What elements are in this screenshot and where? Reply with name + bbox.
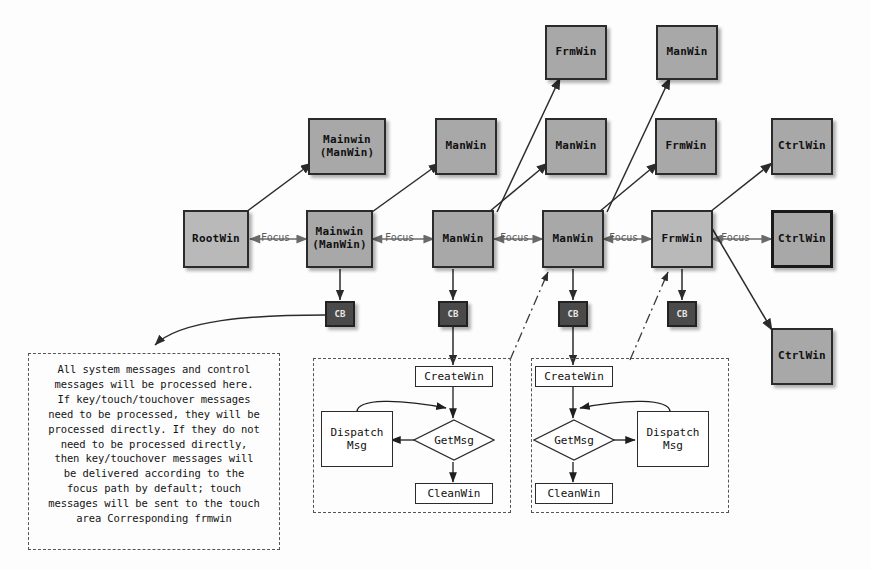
flow-left-createwin[interactable]: CreateWin [415, 366, 493, 387]
node-label: CtrlWin [778, 233, 826, 246]
node-label: ManWin [553, 233, 594, 246]
node-rootwin[interactable]: RootWin [183, 210, 249, 268]
proc-label: CleanWin [428, 487, 481, 500]
cb-box-4[interactable]: CB [667, 301, 697, 327]
proc-label: CleanWin [548, 487, 601, 500]
cb-box-3[interactable]: CB [558, 301, 588, 327]
node-child-mainwin-manwin[interactable]: Mainwin (ManWin) [308, 118, 386, 175]
proc-label: CreateWin [544, 370, 604, 383]
node-child-frmwin-top[interactable]: FrmWin [545, 25, 607, 80]
flow-right-createwin[interactable]: CreateWin [535, 366, 613, 387]
note-line-10: messages will be sent to the touch [35, 496, 273, 511]
note-line-5: processed directly. If they do not [35, 422, 273, 437]
cb-box-2[interactable]: CB [438, 301, 468, 327]
note-line-9: focus path by default; touch [35, 481, 273, 496]
node-manwin-1[interactable]: ManWin [432, 210, 494, 268]
flow-right-cleanwin[interactable]: CleanWin [535, 483, 613, 504]
cb-label: CB [568, 309, 579, 319]
node-label-line2: (ManWin) [320, 147, 375, 160]
node-child-ctrlwin-top[interactable]: CtrlWin [771, 118, 833, 175]
node-label: ManWin [556, 140, 597, 153]
node-child-manwin-a[interactable]: ManWin [435, 118, 497, 175]
node-mainwin-manwin[interactable]: Mainwin (ManWin) [306, 210, 373, 268]
node-child-manwin-b[interactable]: ManWin [545, 118, 607, 175]
flow-right-dispatchmsg[interactable]: Dispatch Msg [637, 411, 709, 467]
node-label: CtrlWin [778, 140, 826, 153]
proc-label-line2: Msg [647, 439, 700, 452]
node-label-line2: (ManWin) [312, 239, 367, 252]
node-child-manwin-top[interactable]: ManWin [656, 25, 718, 80]
node-ctrlwin-mid[interactable]: CtrlWin [771, 210, 833, 268]
node-label: FrmWin [556, 46, 597, 59]
flow-left-dispatchmsg[interactable]: Dispatch Msg [321, 411, 393, 467]
decision-label: GetMsg [533, 419, 615, 461]
proc-label-line1: Dispatch [647, 426, 700, 439]
cb-box-1[interactable]: CB [325, 301, 355, 327]
note-line-11: area Corresponding frmwin [35, 511, 273, 526]
focus-label-2: Focus [385, 232, 414, 243]
node-label: FrmWin [662, 233, 703, 246]
note-line-8: be delivered according to the [35, 466, 273, 481]
note-line-1: All system messages and control [35, 362, 273, 377]
node-label: FrmWin [666, 140, 707, 153]
note-line-7: then key/touchover messages will [35, 451, 273, 466]
note-panel: All system messages and control messages… [28, 353, 280, 550]
note-line-2: messages will be processed here. [35, 377, 273, 392]
node-label-line1: Mainwin [320, 134, 375, 147]
node-label: ManWin [667, 46, 708, 59]
cb-label: CB [335, 309, 346, 319]
focus-label-3: Focus [500, 232, 529, 243]
note-line-3: If key/touch/touchover messages [35, 392, 273, 407]
proc-label-line2: Msg [331, 439, 384, 452]
note-line-6: need to be processed directly, [35, 437, 273, 452]
node-child-ctrlwin-bottom[interactable]: CtrlWin [771, 328, 833, 385]
node-frmwin-1[interactable]: FrmWin [651, 210, 713, 268]
node-label: CtrlWin [778, 350, 826, 363]
flow-left-getmsg[interactable]: GetMsg [413, 419, 495, 461]
node-label: ManWin [443, 233, 484, 246]
cb-label: CB [448, 309, 459, 319]
decision-label: GetMsg [413, 419, 495, 461]
flow-left-cleanwin[interactable]: CleanWin [415, 483, 493, 504]
node-label: ManWin [446, 140, 487, 153]
note-line-4: need to be processed, they will be [35, 407, 273, 422]
diagram-canvas: FrmWin ManWin Mainwin (ManWin) ManWin Ma… [0, 0, 870, 570]
node-child-frmwin-b[interactable]: FrmWin [655, 118, 717, 175]
focus-label-4: Focus [609, 232, 638, 243]
focus-label-5: Focus [721, 232, 750, 243]
cb-label: CB [677, 309, 688, 319]
node-label: RootWin [192, 233, 240, 246]
node-manwin-2[interactable]: ManWin [542, 210, 604, 268]
focus-label-1: Focus [261, 232, 290, 243]
proc-label-line1: Dispatch [331, 426, 384, 439]
proc-label: CreateWin [424, 370, 484, 383]
flow-right-getmsg[interactable]: GetMsg [533, 419, 615, 461]
